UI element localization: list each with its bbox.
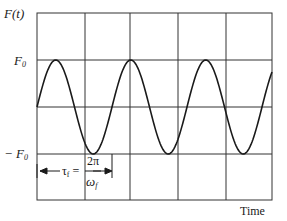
fraction-denominator: ωf	[86, 174, 99, 190]
tau-label: τf=	[62, 164, 80, 179]
f0-bottom-label: − F0	[4, 146, 28, 162]
f0-top-label: F0	[13, 53, 26, 69]
x-axis-label: Time	[240, 204, 265, 218]
chart-figure: F(t) F0 − F0 τf= 2π ωf Time	[0, 0, 287, 221]
fraction-numerator: 2π	[87, 154, 99, 168]
y-axis-label: F(t)	[3, 6, 24, 21]
